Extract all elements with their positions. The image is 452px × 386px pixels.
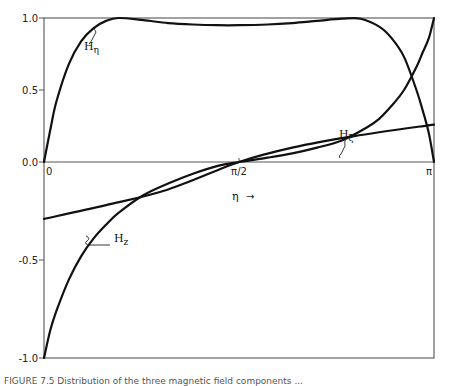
x-tick-label: π/2 [231,166,247,177]
h-xi-label: Hξ [339,128,354,143]
plot-frame [44,18,434,358]
x-axis-label: η [232,190,239,203]
y-axis-ticks: 1.00.50.0-0.5-1.0 [18,13,44,364]
h-eta-curve [44,18,434,162]
y-tick-label: 0.5 [22,85,38,96]
y-tick-label: 0.0 [22,157,38,168]
h-eta-label: Hη [84,40,99,55]
x-axis-label-arrow: → [246,191,254,202]
curves [44,18,434,358]
h-z-label: Hz [114,232,129,247]
y-tick-label: -1.0 [18,353,38,364]
y-tick-label: -0.5 [18,255,38,266]
chart: 1.00.50.0-0.5-1.0 0π/2π Hη Hξ Hz η → [0,0,452,386]
y-tick-label: 1.0 [22,13,38,24]
x-tick-label: π [426,166,432,177]
figure-caption: FIGURE 7.5 Distribution of the three mag… [4,376,303,386]
x-tick-label: 0 [46,166,52,177]
h-xi-curve [44,18,434,358]
